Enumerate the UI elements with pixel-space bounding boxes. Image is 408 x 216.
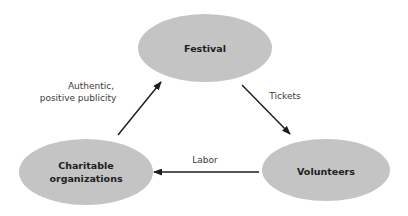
node-festival[interactable]: Festival <box>138 14 272 82</box>
node-charitable-organizations-label-line-2: organizations <box>49 173 122 184</box>
edge-charitable-organizations-to-festival-label-line-2: positive publicity <box>40 93 117 103</box>
node-volunteers[interactable]: Volunteers <box>262 139 390 201</box>
node-charitable-organizations[interactable]: Charitable organizations <box>19 139 153 205</box>
diagram-canvas: Festival Charitable organizations Volunt… <box>0 0 408 216</box>
edge-charitable-organizations-to-festival-label-line-1: Authentic, <box>68 81 114 91</box>
node-charitable-organizations-label-line-1: Charitable <box>58 160 114 171</box>
edge-volunteers-to-charitable-organizations-label: Labor <box>192 155 218 165</box>
relationship-diagram: Festival Charitable organizations Volunt… <box>0 0 408 216</box>
edge-festival-to-volunteers-label: Tickets <box>268 91 301 101</box>
edge-charitable-organizations-to-festival: Authentic, positive publicity <box>40 81 161 136</box>
node-volunteers-label: Volunteers <box>297 166 355 177</box>
edge-volunteers-to-charitable-organizations: Labor <box>154 155 259 173</box>
edge-festival-to-volunteers: Tickets <box>242 85 301 134</box>
edge-charitable-organizations-to-festival-line <box>118 82 161 135</box>
node-festival-label: Festival <box>184 43 226 54</box>
